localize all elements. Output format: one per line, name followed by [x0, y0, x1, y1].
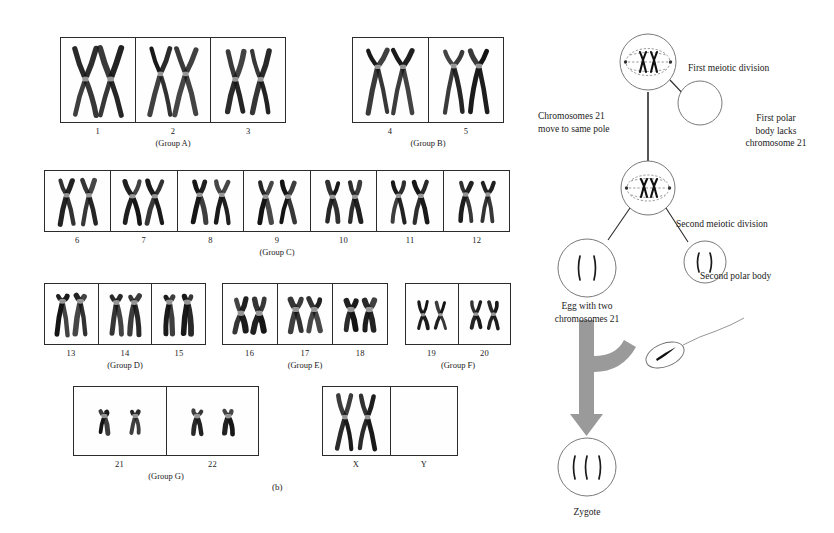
karyotype-box-row	[73, 386, 259, 456]
chromosome-cell-22	[167, 387, 259, 455]
chromosome-pair-15	[152, 284, 205, 344]
chromosome-number-X: X	[322, 459, 390, 469]
chromosome-cell-Y	[391, 387, 458, 455]
label-zygote: Zygote	[547, 506, 627, 519]
chromosome-cell-9	[244, 171, 310, 231]
figure-root: 123(Group A)45(Group B)6789101112(Group …	[0, 0, 834, 533]
chromosome-cell-14	[99, 284, 153, 344]
chromosome-pair-16	[223, 284, 277, 344]
chromosome-number-9: 9	[244, 235, 311, 245]
chromosome-pair-18	[333, 284, 387, 344]
chromosome-pair-14	[99, 284, 152, 344]
chromosome-number-2: 2	[135, 126, 210, 136]
chromosome-cell-19	[406, 284, 459, 344]
chromosome-cell-7	[111, 171, 177, 231]
chromosome-pair-22	[167, 387, 259, 455]
chromosome-number-16: 16	[222, 348, 277, 358]
chromosome-number-12: 12	[443, 235, 510, 245]
chromosome-pair-20	[459, 284, 511, 344]
chromosome-number-13: 13	[44, 348, 98, 358]
chromosome-pair-19	[406, 284, 458, 344]
karyotype-group-d: 131415(Group D)	[44, 283, 206, 345]
chromosome-cell-8	[178, 171, 244, 231]
egg-cell	[558, 239, 616, 297]
chromosome-pair-6	[45, 171, 110, 231]
chromosome-cell-11	[377, 171, 443, 231]
chromosome-pair-13	[45, 284, 98, 344]
first-polar-body	[678, 81, 722, 125]
chromosome-number-4: 4	[352, 126, 428, 136]
karyotype-group-e: 161718(Group E)	[222, 283, 388, 345]
panel-letter-b: (b)	[272, 482, 283, 492]
label-first-polar-body: First polar body lacks chromosome 21	[722, 112, 830, 150]
chromosome-cell-6	[45, 171, 111, 231]
meiosis-diagram: .cellOutline { fill:#ffffff; stroke:#6b6…	[520, 0, 834, 533]
fertilization-arrow	[570, 320, 636, 436]
chromosome-number-6: 6	[44, 235, 111, 245]
chromosome-cell-21	[74, 387, 167, 455]
karyotype-box-row	[405, 283, 511, 345]
karyotype-box-row	[44, 283, 206, 345]
chromosome-cell-5	[429, 38, 504, 122]
karyotype-group-label-group-f: (Group F)	[405, 360, 511, 370]
chromosome-cell-13	[45, 284, 99, 344]
karyotype-group-label-group-g: (Group G)	[73, 471, 259, 481]
chromosome-number-Y: Y	[390, 459, 458, 469]
chromosome-number-7: 7	[111, 235, 178, 245]
label-first-meiotic-division: First meiotic division	[688, 62, 828, 75]
chromosome-pair-21	[74, 387, 166, 455]
karyotype-group-label-group-d: (Group D)	[44, 360, 206, 370]
chromosome-pair-3	[211, 38, 285, 122]
second-division-cell	[621, 161, 675, 215]
karyotype-group-label-group-c: (Group C)	[44, 247, 510, 257]
chromosome-number-20: 20	[458, 348, 511, 358]
chromosome-cell-16	[223, 284, 278, 344]
karyotype-group-label-group-a: (Group A)	[60, 138, 286, 148]
chromosome-cell-20	[459, 284, 511, 344]
chromosome-number-19: 19	[405, 348, 458, 358]
chromosome-pair-X	[323, 387, 390, 455]
karyotype-group-f: 1920(Group F)	[405, 283, 511, 345]
chromosome-pair-5	[429, 38, 504, 122]
chromosome-number-8: 8	[177, 235, 244, 245]
chromosome-cell-17	[278, 284, 333, 344]
karyotype-box-row	[44, 170, 510, 232]
chromosome-cell-4	[353, 38, 429, 122]
karyotype-number-strip: 2122	[73, 459, 259, 469]
chromosome-number-5: 5	[428, 126, 504, 136]
chromosome-number-18: 18	[333, 348, 388, 358]
karyotype-number-strip: 161718	[222, 348, 388, 358]
chromosome-pair-11	[377, 171, 442, 231]
karyotype-number-strip: 1920	[405, 348, 511, 358]
karyotype-panel: 123(Group A)45(Group B)6789101112(Group …	[0, 0, 520, 533]
chromosome-cell-X	[323, 387, 391, 455]
zygote-cell	[558, 438, 616, 496]
chromosome-number-10: 10	[310, 235, 377, 245]
karyotype-box-row	[60, 37, 286, 123]
meiosis-panel: .cellOutline { fill:#ffffff; stroke:#6b6…	[520, 0, 834, 533]
karyotype-group-c: 6789101112(Group C)	[44, 170, 510, 232]
karyotype-number-strip: 131415	[44, 348, 206, 358]
first-division-cell	[620, 34, 676, 90]
chromosome-cell-3	[211, 38, 285, 122]
chromosome-number-15: 15	[152, 348, 206, 358]
chromosome-pair-Y	[391, 387, 458, 455]
chromosome-number-1: 1	[60, 126, 135, 136]
label-second-meiotic-division: Second meiotic division	[676, 218, 834, 231]
chromosome-number-14: 14	[98, 348, 152, 358]
karyotype-group-g: 2122(Group G)	[73, 386, 259, 456]
chromosome-pair-10	[311, 171, 376, 231]
chromosome-number-21: 21	[73, 459, 166, 469]
chromosome-cell-10	[311, 171, 377, 231]
karyotype-group-a: 123(Group A)	[60, 37, 286, 123]
karyotype-group-b: 45(Group B)	[352, 37, 504, 123]
chromosome-pair-9	[244, 171, 309, 231]
chromosome-pair-1	[61, 38, 135, 122]
chromosome-number-17: 17	[277, 348, 332, 358]
label-second-polar-body: Second polar body	[700, 270, 834, 283]
chromosome-pair-8	[178, 171, 243, 231]
karyotype-group-sex: XY	[322, 386, 458, 456]
chromosome-cell-2	[136, 38, 211, 122]
karyotype-number-strip: 45	[352, 126, 504, 136]
chromosome-pair-4	[353, 38, 428, 122]
